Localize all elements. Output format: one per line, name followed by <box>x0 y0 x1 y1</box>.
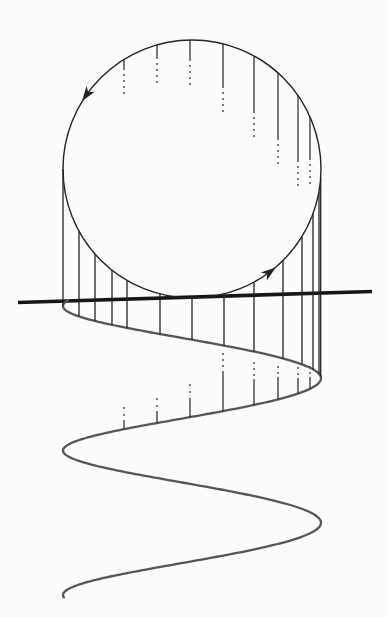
hatch-fade-dot <box>277 156 279 158</box>
hatch-fade-dot <box>222 92 224 94</box>
hatch-fade-dot <box>123 407 125 409</box>
hatch-fade-dot <box>123 80 125 82</box>
hatch-fade-dot <box>189 65 191 67</box>
hatch-fade-dot <box>253 362 255 364</box>
helix-curve <box>63 300 321 597</box>
hatch-fade-dot <box>277 162 279 164</box>
rotation-arrowhead <box>261 267 276 280</box>
hatch-fade-dot <box>189 71 191 73</box>
hatch-fade-dot <box>189 83 191 85</box>
hatch-fade-dot <box>156 63 158 65</box>
hatch-fade-dot <box>123 74 125 76</box>
hatch-fade-dot <box>253 129 255 131</box>
hatch-fade-dot <box>309 372 311 374</box>
hatch-fade-dot <box>297 184 299 186</box>
hatch-fade-dot <box>156 69 158 71</box>
hatch-fade-dot <box>297 172 299 174</box>
hatch-fade-dot <box>277 372 279 374</box>
textbook-figure-page <box>0 0 388 617</box>
hatch-fade-dot <box>222 353 224 355</box>
hatch-fade-dot <box>123 414 125 416</box>
generating-circle <box>63 40 321 298</box>
hatch-fade-dot <box>156 405 158 407</box>
hatch-fade-dot <box>309 182 311 184</box>
hatch-fade-dot <box>253 117 255 119</box>
hatch-fade-dot <box>189 391 191 393</box>
hatch-fade-dot <box>297 178 299 180</box>
hatch-fade-dot <box>253 368 255 370</box>
hatch-fade-dot <box>156 81 158 83</box>
hatch-fade-dot <box>222 104 224 106</box>
hatch-fade-dot <box>222 365 224 367</box>
hatch-fade-dot <box>222 110 224 112</box>
hatch-fade-dot <box>253 123 255 125</box>
hatch-fade-dot <box>297 367 299 369</box>
hatch-fade-dot <box>189 384 191 386</box>
hatch-fade-dot <box>297 373 299 375</box>
hatch-fade-dot <box>189 77 191 79</box>
hatch-fade-dot <box>277 150 279 152</box>
hatch-fade-dot <box>253 135 255 137</box>
hatch-fade-dot <box>309 164 311 166</box>
hatch-fade-dot <box>309 170 311 172</box>
hatch-fade-dot <box>253 374 255 376</box>
hatch-fade-dot <box>222 359 224 361</box>
hatch-fade-dot <box>277 366 279 368</box>
hatch-fade-dot <box>309 176 311 178</box>
hatch-fade-dot <box>297 166 299 168</box>
hatch-fade-dot <box>123 92 125 94</box>
circle-helix-diagram <box>0 0 388 617</box>
hatch-fade-dot <box>277 144 279 146</box>
rotation-arrowhead <box>82 86 95 101</box>
hatch-fade-dot <box>222 98 224 100</box>
hatch-fade-dot <box>123 86 125 88</box>
hatch-fade-dot <box>309 366 311 368</box>
hatch-fade-dot <box>156 75 158 77</box>
hatch-fade-dot <box>156 398 158 400</box>
